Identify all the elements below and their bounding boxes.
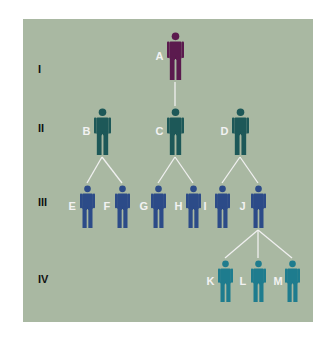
person-icon — [251, 185, 266, 228]
edge-D-I — [222, 157, 240, 183]
generation-label: III — [38, 196, 47, 208]
edge-B-F — [102, 157, 122, 183]
edge-D-J — [240, 157, 258, 183]
edge-C-G — [158, 157, 175, 183]
person-label: M — [274, 275, 283, 287]
person-icon — [80, 185, 95, 228]
person-label: F — [104, 200, 111, 212]
person-label: H — [175, 200, 183, 212]
person-label: K — [207, 275, 215, 287]
person-icon — [115, 185, 130, 228]
person-label: I — [204, 200, 207, 212]
person-icon — [232, 108, 249, 155]
person-icon — [215, 185, 230, 228]
person-icon — [218, 260, 233, 302]
person-icon — [94, 108, 111, 155]
generation-label: IV — [38, 273, 48, 285]
generation-label: II — [38, 122, 44, 134]
person-icon — [167, 108, 184, 155]
person-label: L — [240, 275, 247, 287]
edge-J-K — [225, 230, 258, 258]
person-label: E — [69, 200, 76, 212]
person-icon — [167, 32, 184, 80]
person-icon — [186, 185, 201, 228]
person-label: A — [156, 50, 164, 62]
person-icon — [151, 185, 166, 228]
generation-label: I — [38, 63, 41, 75]
person-label: D — [221, 125, 229, 137]
edge-C-H — [175, 157, 193, 183]
edge-J-M — [258, 230, 292, 258]
person-label: J — [240, 200, 246, 212]
person-icon — [251, 260, 266, 302]
person-icon — [285, 260, 300, 302]
person-label: B — [83, 125, 91, 137]
person-label: G — [140, 200, 149, 212]
edge-B-E — [87, 157, 102, 183]
connector-lines — [0, 0, 328, 340]
person-label: C — [156, 125, 164, 137]
